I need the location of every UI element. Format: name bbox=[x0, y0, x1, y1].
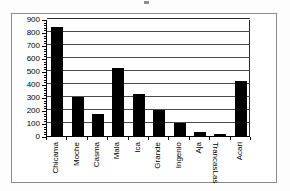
x-tick-label-moche: Moche bbox=[73, 142, 82, 166]
x-tick bbox=[107, 137, 108, 140]
x-tick-label-chicama: Chicama bbox=[52, 142, 61, 174]
x-tick-label-grande: Grande bbox=[154, 142, 163, 169]
bar-moche bbox=[72, 97, 84, 136]
bar-casma bbox=[92, 114, 104, 136]
x-tick-label-ingenio: Ingenio bbox=[175, 142, 184, 168]
bar-ica bbox=[133, 94, 145, 136]
x-tick-label-acari: Acari bbox=[236, 142, 245, 160]
bar-las-trancas bbox=[214, 134, 226, 136]
x-tick bbox=[87, 137, 88, 140]
bar-mala bbox=[112, 68, 124, 136]
x-tick bbox=[148, 137, 149, 140]
figure-canvas: 0100200300400500600700800900 ChicamaMoch… bbox=[0, 0, 290, 191]
x-tick bbox=[168, 137, 169, 140]
x-tick bbox=[250, 137, 251, 140]
x-tick bbox=[230, 137, 231, 140]
x-tick-label-line: Trancas bbox=[210, 142, 219, 171]
bar-acari bbox=[235, 81, 247, 136]
bar-ingenio bbox=[174, 123, 186, 136]
x-tick bbox=[46, 137, 47, 140]
x-tick-label-ica: Ica bbox=[134, 142, 143, 153]
bar-chicama bbox=[51, 27, 63, 136]
gridline-900 bbox=[47, 18, 250, 19]
x-tick bbox=[128, 137, 129, 140]
bar-series bbox=[47, 20, 250, 136]
x-tick-label-line: Las bbox=[210, 171, 219, 184]
x-tick bbox=[189, 137, 190, 140]
x-tick-label-las-trancas: LasTrancas bbox=[210, 142, 219, 184]
bar-aja bbox=[194, 132, 206, 136]
x-tick bbox=[209, 137, 210, 140]
image-artifact-speck bbox=[144, 1, 149, 4]
bar-grande bbox=[153, 110, 165, 136]
x-tick bbox=[66, 137, 67, 140]
plot-area bbox=[46, 20, 250, 137]
x-tick-label-mala: Mala bbox=[113, 142, 122, 159]
x-tick-label-casma: Casma bbox=[93, 142, 102, 167]
x-tick-label-aja: Aja bbox=[195, 142, 204, 154]
